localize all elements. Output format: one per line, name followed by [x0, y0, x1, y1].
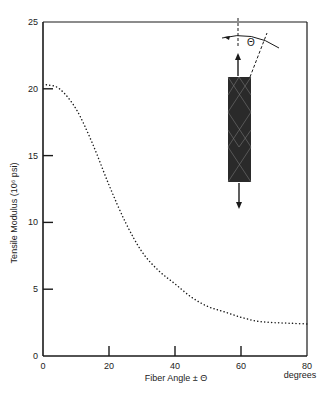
y-axis-title: Tensile Modulus (10⁶ psi) [9, 163, 19, 264]
y-tick-label: 20 [28, 84, 38, 94]
tensile-modulus-chart: 0510152025 020406080 Tensile Modulus (10… [0, 0, 320, 400]
x-axis-title: Fiber Angle ± Θ [145, 373, 207, 383]
y-tick-label: 15 [28, 151, 38, 161]
specimen-diagram: Θ [222, 18, 279, 209]
arc-arrowhead-icon [224, 36, 230, 40]
y-ticks: 0510152025 [28, 17, 53, 361]
arrow-down-icon [236, 202, 242, 209]
plot-frame [43, 22, 307, 356]
modulus-curve [46, 85, 307, 324]
x-tick-label: 0 [40, 361, 45, 371]
x-tick-label: 40 [170, 361, 180, 371]
theta-label: Θ [247, 37, 255, 48]
y-tick-label: 5 [33, 284, 38, 294]
y-tick-label: 0 [33, 351, 38, 361]
x-axis-unit: degrees [284, 370, 317, 380]
arrow-up-icon [235, 53, 241, 60]
x-ticks: 020406080 [40, 346, 312, 371]
y-tick-label: 10 [28, 217, 38, 227]
y-tick-label: 25 [28, 17, 38, 27]
data-series [46, 85, 307, 324]
x-tick-label: 60 [236, 361, 246, 371]
x-tick-label: 20 [104, 361, 114, 371]
